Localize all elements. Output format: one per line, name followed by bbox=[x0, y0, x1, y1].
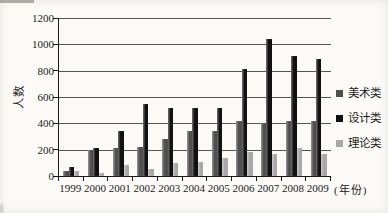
bar-理论类-2001 bbox=[124, 165, 129, 176]
bar-理论类-2006 bbox=[247, 152, 252, 176]
grid-line bbox=[59, 71, 331, 72]
bar-理论类-1999 bbox=[74, 171, 79, 176]
grid-line bbox=[59, 18, 331, 19]
y-tick-label: 1200 bbox=[14, 11, 54, 25]
y-axis-tick bbox=[53, 97, 58, 98]
y-tick-label: 400 bbox=[14, 116, 54, 130]
y-axis-tick bbox=[53, 44, 58, 45]
x-tick-label: 2009 bbox=[301, 181, 334, 195]
y-axis-tick bbox=[53, 70, 58, 71]
y-axis-tick bbox=[53, 149, 58, 150]
legend-label: 理论类 bbox=[348, 136, 381, 150]
bar-理论类-2005 bbox=[222, 158, 227, 176]
legend-swatch bbox=[336, 140, 343, 147]
legend-swatch bbox=[336, 115, 343, 122]
y-tick-label: 600 bbox=[14, 90, 54, 104]
bar-理论类-2008 bbox=[297, 148, 302, 176]
y-tick-label: 800 bbox=[14, 64, 54, 78]
legend-label: 设计类 bbox=[348, 111, 381, 125]
y-axis-tick bbox=[53, 18, 58, 19]
grid-line bbox=[59, 44, 331, 45]
legend-swatch bbox=[336, 90, 343, 97]
scan-smudge bbox=[0, 0, 34, 3]
bar-理论类-2004 bbox=[198, 162, 203, 176]
legend-item-美术类: 美术类 bbox=[336, 86, 381, 100]
x-axis-unit-label: (年份) bbox=[334, 181, 367, 197]
scan-smudge bbox=[0, 204, 3, 213]
y-tick-label: 1000 bbox=[14, 37, 54, 51]
bar-理论类-2002 bbox=[148, 169, 153, 176]
legend-label: 美术类 bbox=[348, 86, 381, 100]
bar-理论类-2007 bbox=[272, 154, 277, 176]
grid-line bbox=[59, 97, 331, 98]
legend-item-设计类: 设计类 bbox=[336, 111, 381, 125]
bar-理论类-2003 bbox=[173, 163, 178, 176]
y-tick-label: 0 bbox=[14, 169, 54, 183]
y-tick-label: 200 bbox=[14, 143, 54, 157]
y-axis-tick bbox=[53, 123, 58, 124]
bar-理论类-2009 bbox=[321, 154, 326, 176]
bar-理论类-2000 bbox=[99, 173, 104, 176]
legend-item-理论类: 理论类 bbox=[336, 136, 381, 150]
bar-设计类-2002 bbox=[143, 104, 148, 176]
plot-area bbox=[58, 18, 331, 177]
bar-chart: 人数 (年份) 02004006008001000120019992000200… bbox=[0, 0, 388, 213]
